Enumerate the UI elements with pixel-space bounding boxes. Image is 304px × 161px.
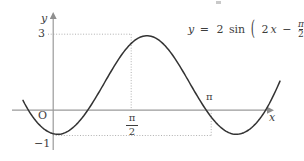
equation-sin: sin: [229, 23, 246, 36]
equation-fraction: π 2: [298, 20, 304, 40]
equation-minus: −: [280, 23, 293, 36]
x-axis-label: x: [269, 112, 275, 123]
origin-label: O: [38, 110, 47, 121]
equation-fraction-denominator: 2: [298, 30, 304, 39]
sine-curve: [23, 36, 280, 135]
sine-function-graph-figure: y x O 3 −1 π π 2 y = 2 sin ( 2x − π 2 ) …: [0, 0, 304, 161]
y-tick-label-neg-1: −1: [34, 138, 50, 149]
y-tick-label-3: 3: [38, 28, 45, 39]
equation-open-paren: (: [250, 18, 256, 39]
y-axis-label: y: [41, 13, 47, 24]
function-equation: y = 2 sin ( 2x − π 2 ) + 1: [188, 20, 304, 40]
equation-fraction-numerator: π: [298, 20, 304, 29]
equation-equals: =: [198, 23, 211, 36]
pi-over-2-denominator: 2: [124, 127, 140, 138]
equation-inner-coefficient: 2: [259, 23, 270, 36]
x-tick-label-pi: π: [206, 92, 213, 102]
equation-inner-variable: x: [270, 23, 276, 36]
pi-over-2-numerator: π: [124, 113, 140, 124]
equation-lhs: y: [188, 23, 194, 36]
x-tick-label-pi-over-2: π 2: [124, 113, 140, 137]
equation-coefficient: 2: [214, 23, 225, 36]
